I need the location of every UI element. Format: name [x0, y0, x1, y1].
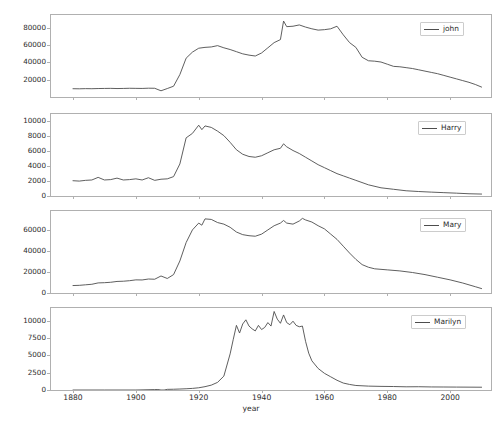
y-tick-mark: [47, 80, 50, 81]
x-tick-label: 1940: [242, 393, 282, 402]
y-tick-label: 2500: [8, 369, 46, 377]
x-tick-mark: [324, 293, 325, 296]
x-tick-mark: [324, 97, 325, 100]
legend-line-icon: [424, 225, 439, 226]
x-tick-mark: [450, 293, 451, 296]
y-tick-mark: [47, 230, 50, 231]
subplot-marilyn: 025005000750010000 188019001920194019601…: [0, 299, 502, 431]
x-tick-label: 1920: [179, 393, 219, 402]
x-tick-mark: [73, 97, 74, 100]
y-tick-mark: [47, 321, 50, 322]
legend-label-john: john: [443, 25, 459, 33]
x-tick-mark: [450, 97, 451, 100]
y-tick-mark: [47, 251, 50, 252]
legend-john: john: [420, 22, 464, 36]
legend-label-harry: Harry: [441, 124, 461, 132]
y-tick-label: 2000: [8, 177, 46, 185]
y-tick-label: 0: [8, 386, 46, 394]
legend-label-mary: Mary: [443, 221, 461, 229]
y-tick-mark: [47, 373, 50, 374]
x-tick-label: 2000: [430, 393, 470, 402]
x-axis-label: year: [0, 404, 502, 413]
y-tick-mark: [47, 151, 50, 152]
legend-line-icon: [422, 128, 437, 129]
y-tick-label: 60000: [8, 226, 46, 234]
y-tick-label: 0: [8, 192, 46, 200]
x-tick-mark: [73, 196, 74, 199]
x-tick-mark: [199, 293, 200, 296]
y-tick-label: 5000: [8, 351, 46, 359]
subplot-mary: 0200004000060000 Mary: [0, 202, 502, 299]
y-tick-label: 6000: [8, 147, 46, 155]
y-tick-label: 10000: [8, 317, 46, 325]
x-tick-mark: [199, 196, 200, 199]
y-tick-label: 7500: [8, 334, 46, 342]
y-tick-mark: [47, 136, 50, 137]
x-tick-mark: [136, 97, 137, 100]
x-tick-mark: [387, 196, 388, 199]
y-tick-mark: [47, 196, 50, 197]
y-tick-mark: [47, 121, 50, 122]
y-tick-mark: [47, 272, 50, 273]
x-tick-mark: [136, 196, 137, 199]
y-tick-label: 60000: [8, 41, 46, 49]
y-tick-label: 0: [8, 289, 46, 297]
y-tick-label: 80000: [8, 24, 46, 32]
y-tick-label: 40000: [8, 58, 46, 66]
legend-mary: Mary: [420, 218, 466, 232]
x-tick-label: 1880: [53, 393, 93, 402]
x-tick-mark: [73, 293, 74, 296]
x-tick-mark: [387, 97, 388, 100]
figure-root: 20000400006000080000 john 02000400060008…: [0, 0, 502, 431]
y-tick-mark: [47, 293, 50, 294]
x-tick-mark: [262, 293, 263, 296]
legend-line-icon: [415, 322, 430, 323]
x-tick-mark: [324, 196, 325, 199]
y-tick-mark: [47, 28, 50, 29]
legend-line-icon: [424, 29, 439, 30]
x-tick-mark: [262, 196, 263, 199]
legend-harry: Harry: [418, 121, 466, 135]
y-tick-mark: [47, 62, 50, 63]
x-tick-mark: [387, 293, 388, 296]
y-tick-mark: [47, 181, 50, 182]
x-tick-label: 1980: [367, 393, 407, 402]
x-tick-mark: [136, 293, 137, 296]
legend-marilyn: Marilyn: [411, 315, 466, 329]
y-tick-mark: [47, 45, 50, 46]
y-tick-label: 8000: [8, 132, 46, 140]
y-tick-mark: [47, 355, 50, 356]
y-tick-label: 4000: [8, 162, 46, 170]
x-tick-label: 1900: [116, 393, 156, 402]
subplot-john: 20000400006000080000 john: [0, 0, 502, 107]
y-tick-label: 40000: [8, 247, 46, 255]
x-tick-mark: [199, 97, 200, 100]
x-tick-label: 1960: [304, 393, 344, 402]
y-tick-label: 20000: [8, 268, 46, 276]
y-tick-label: 10000: [8, 117, 46, 125]
y-tick-mark: [47, 390, 50, 391]
x-tick-mark: [450, 196, 451, 199]
y-tick-mark: [47, 338, 50, 339]
subplot-harry: 0200040006000800010000 Harry: [0, 105, 502, 202]
y-tick-mark: [47, 166, 50, 167]
legend-label-marilyn: Marilyn: [434, 318, 461, 326]
y-tick-label: 20000: [8, 76, 46, 84]
x-tick-mark: [262, 97, 263, 100]
